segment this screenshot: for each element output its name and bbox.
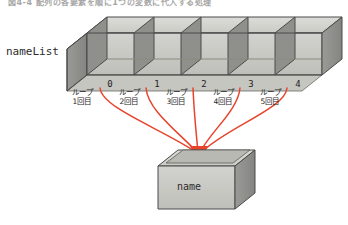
loop-label-4: ループ 5回目: [250, 88, 290, 106]
loop-label-4-line1: ループ: [250, 88, 290, 97]
array-top-face: [87, 17, 342, 33]
loop-label-3-line1: ループ: [203, 88, 243, 97]
name-cube: [158, 150, 255, 209]
loop-label-4-line2: 5回目: [250, 97, 290, 106]
loop-label-2-line1: ループ: [156, 88, 196, 97]
loop-label-0-line2: 1回目: [62, 97, 102, 106]
loop-label-1: ループ 2回目: [109, 88, 149, 106]
loop-label-3: ループ 4回目: [203, 88, 243, 106]
diagram-svg: [0, 0, 348, 225]
loop-label-1-line2: 2回目: [109, 97, 149, 106]
loop-label-0-line1: ループ: [62, 88, 102, 97]
loop-label-2: ループ 3回目: [156, 88, 196, 106]
loop-label-0: ループ 1回目: [62, 88, 102, 106]
loop-label-1-line1: ループ: [109, 88, 149, 97]
figure-canvas: 図4-4 配列の各要素を順に1つの変数に代入する処理: [0, 0, 348, 225]
loop-label-2-line2: 3回目: [156, 97, 196, 106]
loop-label-3-line2: 4回目: [203, 97, 243, 106]
name-variable-label: name: [177, 181, 201, 192]
array-index-4: 4: [291, 79, 305, 89]
array-name-label: nameList: [6, 45, 59, 58]
